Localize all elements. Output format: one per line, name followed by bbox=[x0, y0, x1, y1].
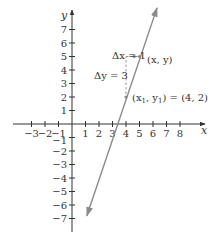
x-axis-label: x bbox=[201, 124, 208, 137]
x-tick-label: 1 bbox=[82, 128, 88, 139]
y-tick-label: −3 bbox=[52, 159, 67, 170]
x-tick-label: 2 bbox=[96, 128, 102, 139]
coordinate-plane-chart: −3−2−112345678 −7−6−5−4−3−2−11234567 x y… bbox=[0, 0, 214, 236]
y-tick-label: 1 bbox=[61, 105, 67, 116]
y-tick-label: −6 bbox=[52, 200, 67, 211]
y-tick-label: 7 bbox=[61, 24, 67, 35]
x-tick-label: 7 bbox=[163, 128, 169, 139]
line-series bbox=[87, 8, 157, 216]
y-tick-label: 3 bbox=[61, 78, 67, 89]
y-tick-label: 6 bbox=[61, 38, 67, 49]
point-x1-y1-label: (x1, y1) = (4, 2) bbox=[132, 92, 208, 105]
point-x1-y1-prefix: (x bbox=[132, 92, 142, 103]
y-tick-label: 2 bbox=[61, 92, 67, 103]
delta-y-label: Δy = 3 bbox=[94, 70, 128, 81]
point-x1-y1-marker bbox=[124, 95, 127, 98]
y-tick-label: −2 bbox=[52, 146, 67, 157]
point-x1-y1-suffix: ) = (4, 2) bbox=[163, 92, 209, 103]
y-tick-label: −1 bbox=[52, 135, 67, 146]
point-x1-y1-mid: , y bbox=[146, 92, 158, 103]
delta-x-label: Δx = 1 bbox=[112, 50, 146, 61]
x-tick-label: 6 bbox=[150, 128, 156, 139]
x-tick-label: 5 bbox=[136, 128, 142, 139]
x-tick-label: 8 bbox=[177, 128, 183, 139]
y-tick-label: 4 bbox=[61, 65, 67, 76]
y-tick-label: −5 bbox=[52, 186, 67, 197]
y-tick-label: −7 bbox=[52, 213, 67, 224]
point-x-y-label: (x, y) bbox=[147, 54, 173, 65]
y-tick-label: −4 bbox=[52, 173, 67, 184]
y-tick-label: 5 bbox=[61, 51, 67, 62]
x-tick-label: 4 bbox=[123, 128, 129, 139]
y-axis-label: y bbox=[60, 9, 68, 22]
